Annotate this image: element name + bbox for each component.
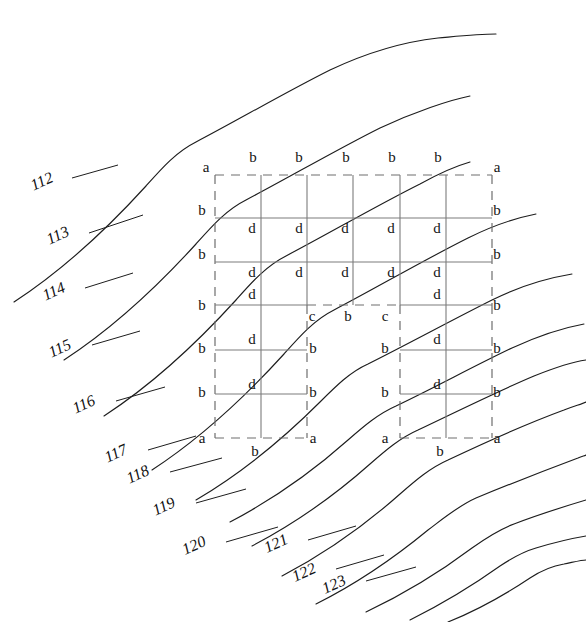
node-label-d-interior-lower-1: d	[433, 331, 441, 347]
node-label-a-left-5: a	[199, 430, 206, 446]
node-label-d-interior-upper-3: d	[387, 220, 395, 236]
node-label-d-interior-upper-10: d	[248, 286, 256, 302]
node-label-b-subgrid-edge-4: b	[381, 384, 389, 400]
node-label-b-subgrid-edge-3: b	[381, 340, 389, 356]
reference-numeral-113: 113	[44, 223, 72, 248]
node-label-b-bottom-1: b	[436, 443, 444, 459]
node-label-a-subgrid-edge-2: a	[310, 430, 317, 446]
reference-numeral-112: 112	[28, 169, 56, 194]
leader-line-114	[85, 273, 133, 288]
node-label-c-middle-2: c	[382, 308, 389, 324]
node-label-d-interior-upper-2: d	[341, 220, 349, 236]
wave-123	[448, 560, 586, 622]
leader-line-123	[366, 567, 416, 581]
patent-figure: abbbbbabbbbbabbbbbaddddddddddddcbcddddbb…	[0, 0, 586, 622]
node-label-d-interior-upper-9: d	[433, 264, 441, 280]
node-label-d-interior-lower-0: d	[248, 331, 256, 347]
wave-114	[104, 162, 470, 416]
leader-line-116	[116, 387, 165, 401]
node-label-d-interior-lower-2: d	[248, 376, 256, 392]
leader-line-115	[92, 331, 140, 345]
wave-121	[366, 500, 586, 612]
node-label-b-left-3: b	[198, 340, 206, 356]
node-label-b-middle-1: b	[344, 308, 352, 324]
node-label-b-top-5: b	[434, 149, 442, 165]
node-label-b-top-4: b	[388, 149, 396, 165]
grid-group	[215, 175, 492, 438]
node-label-d-interior-upper-4: d	[433, 220, 441, 236]
node-label-d-interior-upper-6: d	[295, 264, 303, 280]
node-label-d-interior-lower-3: d	[433, 376, 441, 392]
wave-119	[282, 402, 586, 576]
node-label-b-bottom-0: b	[251, 443, 259, 459]
node-label-b-left-0: b	[198, 202, 206, 218]
leader-line-121	[308, 526, 356, 540]
node-label-d-interior-upper-7: d	[341, 264, 349, 280]
reference-numeral-121: 121	[261, 530, 290, 555]
reference-numeral-117: 117	[102, 440, 131, 465]
leader-line-group	[72, 165, 416, 581]
node-label-b-subgrid-edge-0: b	[309, 340, 317, 356]
wave-113	[64, 96, 470, 360]
reference-numeral-116: 116	[70, 392, 98, 417]
node-label-b-right-2: b	[493, 297, 501, 313]
node-label-a-subgrid-edge-5: a	[382, 430, 389, 446]
node-label-d-interior-upper-8: d	[387, 264, 395, 280]
reference-numeral-123: 123	[319, 571, 348, 596]
leader-line-122	[336, 555, 384, 569]
node-label-b-top-3: b	[342, 149, 350, 165]
node-label-b-subgrid-edge-1: b	[309, 384, 317, 400]
figure-canvas: abbbbbabbbbbabbbbbaddddddddddddcbcddddbb…	[0, 0, 586, 622]
leader-line-118	[170, 458, 222, 472]
node-label-c-middle-0: c	[309, 308, 316, 324]
node-label-d-interior-upper-1: d	[295, 220, 303, 236]
reference-numeral-118: 118	[124, 462, 152, 487]
node-label-b-left-1: b	[198, 246, 206, 262]
node-label-b-right-1: b	[493, 246, 501, 262]
node-label-b-left-2: b	[198, 297, 206, 313]
reference-numeral-120: 120	[179, 532, 208, 557]
node-label-b-right-3: b	[493, 340, 501, 356]
node-label-d-interior-upper-5: d	[248, 264, 256, 280]
node-label-d-interior-upper-11: d	[433, 286, 441, 302]
node-label-b-top-1: b	[249, 149, 257, 165]
leader-line-112	[72, 165, 118, 178]
wave-115	[152, 214, 536, 470]
reference-numeral-122: 122	[289, 559, 318, 584]
node-label-b-right-4: b	[493, 384, 501, 400]
node-label-b-left-4: b	[198, 384, 206, 400]
wave-118	[252, 360, 586, 546]
node-label-a-top-0: a	[203, 159, 210, 175]
reference-numeral-114: 114	[40, 279, 68, 304]
node-label-a-top-6: a	[494, 159, 501, 175]
wave-curve-group	[14, 34, 586, 622]
node-label-b-top-2: b	[295, 149, 303, 165]
reference-numeral-119: 119	[150, 494, 178, 519]
node-label-b-right-0: b	[493, 202, 501, 218]
node-label-d-interior-upper-0: d	[248, 220, 256, 236]
node-label-a-right-5: a	[494, 430, 501, 446]
wave-122	[410, 536, 586, 620]
